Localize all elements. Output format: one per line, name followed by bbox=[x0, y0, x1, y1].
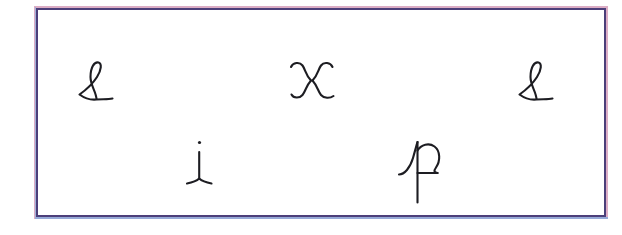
glyph-cursive-i bbox=[182, 138, 216, 190]
ink-rectangle-frame bbox=[18, 4, 588, 213]
glyph-cursive-p bbox=[396, 136, 446, 208]
frame-main-stroke bbox=[36, 8, 606, 217]
glyph-cursive-x-center bbox=[288, 60, 336, 104]
screenshot-canvas bbox=[0, 0, 622, 235]
glyph-cursive-ell-right bbox=[516, 58, 556, 106]
glyph-cursive-ell-left bbox=[76, 58, 116, 106]
